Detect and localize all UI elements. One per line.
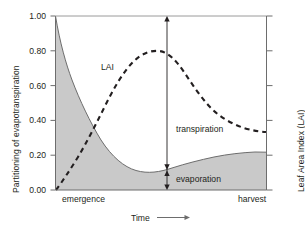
annotation-transpiration: transpiration (176, 124, 223, 134)
y-tick-label: 0.80 (12, 46, 46, 56)
x-tick-label-harvest: harvest (238, 194, 266, 204)
x-tick-label-emergence: emergence (62, 194, 105, 204)
left-axis-ticks (51, 16, 56, 190)
y2-axis-title: Leaf Area Index (LAI) (296, 110, 305, 192)
y-tick-label: 1.00 (12, 11, 46, 21)
x-axis-title: Time (131, 213, 150, 223)
annotation-evaporation: evaporation (176, 174, 221, 184)
right-axis-ticks (267, 16, 273, 190)
annotation-lai: LAI (101, 62, 114, 72)
y-axis-title: Partitioning of evapotranspiration (11, 65, 21, 193)
time-direction-arrow (157, 215, 190, 220)
